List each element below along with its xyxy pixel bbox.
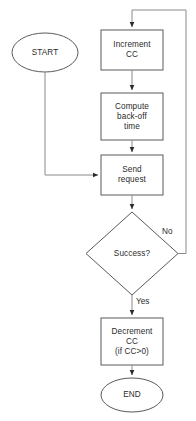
edge-label-yes: Yes	[136, 297, 149, 306]
send-request-node-shape	[101, 155, 163, 195]
flowchart-canvas: START Increment CC Compute back-off time…	[0, 0, 196, 421]
increment-cc-node-shape	[101, 30, 163, 70]
success-decision-node-shape	[86, 212, 178, 295]
decrement-cc-node-shape	[101, 318, 163, 365]
edge-label-no: No	[162, 227, 172, 236]
compute-backoff-node-shape	[101, 93, 163, 140]
edge-start-to-send	[45, 72, 98, 175]
flowchart-graphics	[0, 0, 196, 421]
end-node-shape	[101, 378, 163, 412]
start-node-shape	[12, 33, 78, 72]
